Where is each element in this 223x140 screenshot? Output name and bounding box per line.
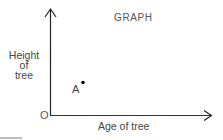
x-axis-label: Age of tree [98,121,149,132]
y-axis-label-line-3: tree [2,70,46,80]
graph-title: GRAPH [114,12,153,23]
page-edge-mark [0,137,22,139]
origin-label: O [40,110,49,121]
point-a-marker [81,81,85,85]
point-a-label: A [72,84,79,95]
y-axis-label: Height of tree [2,50,46,80]
